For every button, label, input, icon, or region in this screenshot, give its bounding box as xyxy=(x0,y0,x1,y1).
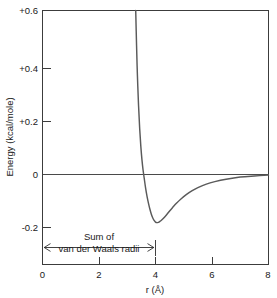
x-axis-ticks xyxy=(43,257,269,265)
x-tick-label-2: 4 xyxy=(153,269,158,280)
y-tick-label-4: -0.2 xyxy=(22,222,38,233)
y-axis-ticks xyxy=(43,11,51,228)
x-tick-label-1: 2 xyxy=(96,269,101,280)
y-tick-label-3: 0 xyxy=(33,169,38,180)
y-tick-label-2: +0.2 xyxy=(19,116,38,127)
y-axis-title: Energy (kcal/mole) xyxy=(4,97,15,176)
van-der-waals-annotation: Sum of van der Waals radii xyxy=(44,231,156,256)
potential-energy-curve xyxy=(136,11,269,223)
annotation-text-line1: Sum of xyxy=(84,231,114,242)
x-tick-label-4: 8 xyxy=(265,269,270,280)
y-axis-tick-labels: +0.6 +0.4 +0.2 0 -0.2 xyxy=(19,5,38,233)
figure-container: +0.6 +0.4 +0.2 0 -0.2 0 2 4 6 8 xyxy=(0,0,277,298)
plot-frame xyxy=(43,11,269,265)
x-tick-label-3: 6 xyxy=(209,269,214,280)
x-axis-tick-labels: 0 2 4 6 8 xyxy=(40,269,271,280)
annotation-text-line2: van der Waals radii xyxy=(59,243,140,254)
y-tick-label-1: +0.4 xyxy=(19,63,38,74)
x-axis-title: r (Å) xyxy=(146,284,164,295)
y-tick-label-0: +0.6 xyxy=(19,5,38,16)
potential-energy-chart: +0.6 +0.4 +0.2 0 -0.2 0 2 4 6 8 xyxy=(0,0,277,298)
x-tick-label-0: 0 xyxy=(40,269,45,280)
